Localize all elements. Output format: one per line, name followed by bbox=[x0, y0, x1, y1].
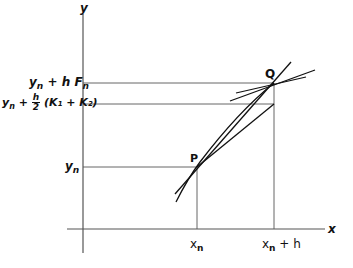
y-axis-label: y bbox=[80, 2, 88, 14]
point-Q-label: Q bbox=[265, 68, 275, 80]
point-P-label: P bbox=[190, 153, 198, 164]
x-tick-xn-plus-h: xn + h bbox=[262, 238, 301, 253]
x-axis-label: x bbox=[328, 223, 336, 235]
y-tick-yn-plus-h-half-K: yn + h2 (K₁ + K₂) bbox=[2, 93, 98, 112]
y-tick-yn: yn bbox=[65, 160, 79, 175]
x-tick-xn: xn bbox=[190, 238, 204, 253]
runge-kutta-diagram: y x Q P xn xn + h yn + h Fn yn + h2 (K₁ … bbox=[0, 0, 353, 268]
y-tick-yn-plus-h-Fn: yn + h Fn bbox=[29, 76, 89, 91]
line-avg-slope bbox=[197, 104, 274, 167]
diagram-canvas bbox=[0, 0, 353, 268]
solution-curve bbox=[176, 83, 274, 202]
